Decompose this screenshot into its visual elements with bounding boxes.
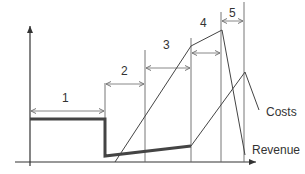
lifecycle-diagram: 1 2 3 4 5 Costs Revenue: [0, 0, 305, 174]
revenue-label: Revenue: [252, 143, 300, 157]
phase-label-4: 4: [200, 16, 207, 30]
costs-label: Costs: [266, 105, 297, 119]
phase-label-3: 3: [163, 38, 170, 52]
phase-label-2: 2: [121, 64, 128, 78]
phase-label-1: 1: [62, 91, 69, 105]
revenue-line-thick: [30, 119, 191, 156]
revenue-line: [191, 72, 259, 146]
phase-boundaries: [105, 2, 244, 162]
costs-line: [115, 30, 245, 162]
phase-label-5: 5: [229, 6, 236, 20]
